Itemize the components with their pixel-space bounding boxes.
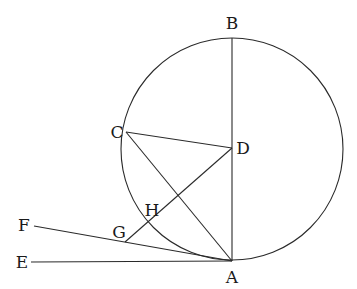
point-label-g: G [112, 222, 126, 242]
segment-EA [31, 261, 232, 262]
segment-CD [126, 132, 232, 148]
segments [31, 38, 232, 262]
point-labels: ABCDEFGH [16, 13, 250, 287]
point-label-h: H [145, 200, 160, 220]
point-label-e: E [16, 252, 28, 272]
segment-FA [34, 226, 232, 261]
segment-CA [126, 132, 232, 261]
point-label-c: C [110, 122, 123, 142]
diagram-svg: ABCDEFGH [0, 0, 357, 289]
geometry-diagram: ABCDEFGH [0, 0, 357, 289]
point-label-f: F [18, 215, 30, 235]
point-label-a: A [225, 267, 239, 287]
point-label-b: B [226, 13, 239, 33]
point-label-d: D [236, 138, 250, 158]
segment-DG [125, 148, 232, 242]
